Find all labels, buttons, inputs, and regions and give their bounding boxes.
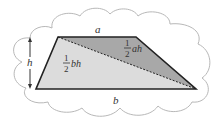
height-label: h — [27, 56, 33, 68]
lower-triangle-expr: bh — [71, 58, 81, 69]
lower-fraction-num: 1 — [64, 53, 69, 63]
upper-fraction-num: 1 — [125, 38, 130, 48]
bottom-side-label: b — [113, 94, 119, 106]
upper-triangle-expr: ah — [132, 43, 142, 54]
top-side-label: a — [95, 23, 101, 35]
upper-fraction-den: 2 — [125, 49, 130, 59]
lower-fraction-den: 2 — [64, 64, 69, 74]
trapezoid-diagram: h a b 1 2 ah 1 2 bh — [0, 0, 218, 129]
